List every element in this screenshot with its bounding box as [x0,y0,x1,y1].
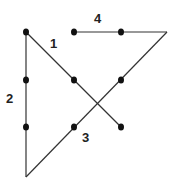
dot-r3c1 [23,123,29,130]
segment-label-1: 1 [50,36,57,51]
dot-r2c1 [23,76,29,83]
dot-r1c3 [118,28,124,35]
dot-r2c2 [71,76,77,83]
segment-label-4: 4 [94,11,102,26]
segment-label-3: 3 [82,130,89,145]
labels: 1 2 3 4 [6,11,102,145]
dot-r1c1 [23,28,29,35]
dot-r1c2 [71,28,77,35]
dot-r2c3 [118,76,124,83]
dot-r3c2 [71,123,77,130]
dot-r3c3 [118,123,124,130]
segment-label-2: 2 [6,91,13,106]
nine-dots-diagram: 1 2 3 4 [0,0,174,184]
segments [26,32,167,177]
